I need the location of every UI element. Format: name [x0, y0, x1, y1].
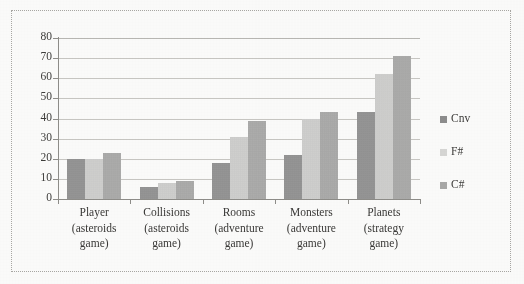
legend-swatch-icon: [440, 116, 447, 123]
y-axis-tick-label: 60: [26, 71, 52, 83]
y-axis-tick-label: 20: [26, 152, 52, 164]
bar-texture: [302, 119, 320, 200]
bar-texture: [248, 121, 266, 199]
x-axis-tick: [420, 199, 421, 204]
bar-csharp: [320, 112, 338, 199]
chart-legend: CnvF#C#: [440, 108, 510, 207]
x-axis-tick: [203, 199, 204, 204]
y-axis-tick: [53, 98, 59, 99]
y-axis-tick: [53, 159, 59, 160]
bar-cnv: [212, 163, 230, 199]
bar-group: [203, 38, 275, 199]
bar-fsharp: [375, 74, 393, 199]
y-axis-tick: [53, 58, 59, 59]
y-axis-tick-label: 50: [26, 91, 52, 103]
y-axis-tick-label: 0: [26, 192, 52, 204]
legend-label: Cnv: [451, 113, 470, 125]
x-axis-tick: [275, 199, 276, 204]
bar-group: [348, 38, 420, 199]
bar-csharp: [248, 121, 266, 199]
legend-item[interactable]: F#: [440, 141, 510, 163]
bar-texture: [67, 159, 85, 199]
bar-cnv: [284, 155, 302, 199]
category-label-line: (strategy: [342, 221, 426, 237]
y-axis-tick-label: 80: [26, 31, 52, 43]
bar-group: [58, 38, 130, 199]
y-axis-tick-label: 70: [26, 51, 52, 63]
bar-texture: [393, 56, 411, 199]
x-axis-tick: [130, 199, 131, 204]
bar-cnv: [357, 112, 375, 199]
bar-texture: [176, 181, 194, 199]
bar-texture: [85, 159, 103, 199]
legend-swatch-icon: [440, 182, 447, 189]
x-axis-line: [58, 199, 420, 200]
bar-csharp: [393, 56, 411, 199]
bar-texture: [140, 187, 158, 199]
plot-area: [58, 38, 420, 199]
y-axis-tick-label: 10: [26, 172, 52, 184]
bar-texture: [357, 112, 375, 199]
y-axis-tick-label: 30: [26, 132, 52, 144]
bar-fsharp: [158, 183, 176, 199]
bar-fsharp: [230, 137, 248, 199]
x-axis-tick: [58, 199, 59, 204]
y-axis-tick: [53, 139, 59, 140]
bar-group: [130, 38, 202, 199]
bar-cnv: [67, 159, 85, 199]
category-label-line: Planets: [342, 205, 426, 221]
legend-item[interactable]: C#: [440, 174, 510, 196]
y-axis-labels: 01020304050607080: [18, 0, 52, 284]
bar-csharp: [103, 153, 121, 199]
y-axis-tick: [53, 179, 59, 180]
legend-item[interactable]: Cnv: [440, 108, 510, 130]
bar-group: [275, 38, 347, 199]
bar-fsharp: [302, 119, 320, 200]
bar-texture: [230, 137, 248, 199]
y-axis-tick: [53, 38, 59, 39]
y-axis-tick: [53, 78, 59, 79]
x-axis-category-labels: Player(asteroidsgame)Collisions(asteroid…: [58, 205, 420, 279]
legend-label: C#: [451, 179, 464, 191]
x-axis-category-label: Planets(strategygame): [342, 205, 426, 252]
bar-texture: [320, 112, 338, 199]
y-axis-tick: [53, 119, 59, 120]
legend-label: F#: [451, 146, 463, 158]
category-label-line: game): [342, 236, 426, 252]
y-axis-tick-label: 40: [26, 112, 52, 124]
bar-chart-figure: 01020304050607080 Player(asteroidsgame)C…: [0, 0, 524, 284]
bar-texture: [375, 74, 393, 199]
bar-texture: [284, 155, 302, 199]
bar-texture: [103, 153, 121, 199]
x-axis-tick: [348, 199, 349, 204]
bar-csharp: [176, 181, 194, 199]
bar-fsharp: [85, 159, 103, 199]
bar-cnv: [140, 187, 158, 199]
bar-texture: [158, 183, 176, 199]
bar-texture: [212, 163, 230, 199]
legend-swatch-icon: [440, 149, 447, 156]
